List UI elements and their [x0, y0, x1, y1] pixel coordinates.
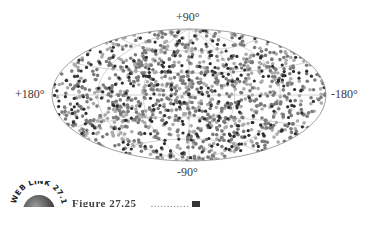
data-point	[190, 138, 193, 141]
data-point	[141, 52, 145, 56]
data-point	[155, 149, 158, 152]
data-point	[215, 106, 219, 110]
data-point	[284, 58, 288, 62]
data-point	[185, 50, 189, 54]
data-point	[242, 130, 246, 134]
data-point	[290, 114, 294, 118]
data-point	[215, 55, 219, 59]
data-point	[160, 98, 164, 102]
data-point	[130, 147, 133, 150]
data-point	[140, 150, 144, 154]
data-point	[231, 80, 234, 83]
data-point	[204, 110, 207, 113]
data-point	[95, 68, 99, 72]
data-point	[281, 78, 284, 81]
data-point	[176, 42, 179, 45]
data-point	[268, 126, 272, 130]
data-point	[288, 109, 292, 113]
data-point	[227, 73, 230, 76]
data-point	[129, 98, 133, 102]
data-point	[71, 112, 74, 115]
data-point	[187, 116, 191, 120]
data-point	[162, 65, 165, 68]
data-point	[259, 94, 262, 97]
data-point	[163, 122, 166, 125]
web-link-badge[interactable]: WEB LINK 27.16	[8, 181, 70, 207]
data-point	[197, 91, 200, 94]
data-point	[250, 140, 254, 144]
data-point	[229, 115, 233, 119]
data-point	[257, 145, 260, 148]
data-point	[319, 92, 323, 96]
data-point	[190, 55, 193, 58]
data-point	[129, 44, 133, 48]
data-point	[213, 66, 216, 69]
data-point	[98, 124, 102, 128]
data-point	[220, 51, 224, 55]
data-point	[128, 79, 132, 83]
data-point	[85, 129, 89, 133]
data-point	[283, 94, 287, 98]
data-point	[289, 56, 293, 60]
data-point	[218, 139, 222, 143]
data-point	[53, 94, 56, 97]
data-point	[205, 66, 209, 70]
data-point	[296, 112, 300, 116]
data-point	[158, 104, 161, 107]
data-point	[292, 58, 296, 62]
data-point	[216, 80, 220, 84]
data-point	[221, 57, 225, 61]
data-point	[268, 51, 272, 55]
data-point	[238, 100, 241, 103]
data-point	[212, 73, 215, 76]
data-point	[145, 56, 148, 59]
data-point	[112, 46, 115, 49]
data-point	[111, 103, 114, 106]
data-point	[272, 110, 275, 113]
data-point	[259, 80, 263, 84]
data-point	[198, 119, 201, 122]
data-point	[181, 79, 185, 83]
data-point	[239, 91, 243, 95]
data-point	[228, 95, 232, 99]
data-point	[173, 76, 177, 80]
data-point	[106, 110, 110, 114]
data-point	[207, 94, 210, 97]
data-point	[191, 106, 195, 110]
data-point	[287, 122, 290, 125]
data-point	[190, 47, 194, 51]
data-point	[149, 152, 153, 156]
data-point	[190, 85, 194, 89]
data-point	[152, 84, 156, 88]
data-point	[137, 138, 141, 142]
data-point	[168, 77, 172, 81]
data-point	[96, 74, 100, 78]
data-point	[156, 132, 160, 136]
data-point	[301, 85, 305, 89]
data-point	[225, 63, 228, 66]
data-point	[272, 115, 276, 119]
data-point	[108, 86, 111, 89]
data-point	[239, 105, 243, 109]
data-point	[136, 79, 140, 83]
data-point	[63, 110, 67, 114]
data-point	[107, 107, 111, 111]
data-point	[251, 93, 255, 97]
data-point	[188, 111, 192, 115]
data-point	[215, 126, 219, 130]
data-point	[161, 70, 164, 73]
data-point	[181, 36, 184, 39]
data-point	[269, 85, 273, 89]
data-point	[174, 54, 177, 57]
data-point	[299, 99, 303, 103]
data-point	[94, 78, 98, 82]
data-point	[247, 134, 250, 137]
data-point	[76, 109, 80, 113]
data-point	[230, 36, 234, 40]
data-point	[202, 60, 206, 64]
data-point	[117, 43, 121, 47]
data-point	[270, 58, 274, 62]
data-point	[257, 66, 261, 70]
data-point	[236, 127, 240, 131]
data-point	[178, 39, 181, 42]
